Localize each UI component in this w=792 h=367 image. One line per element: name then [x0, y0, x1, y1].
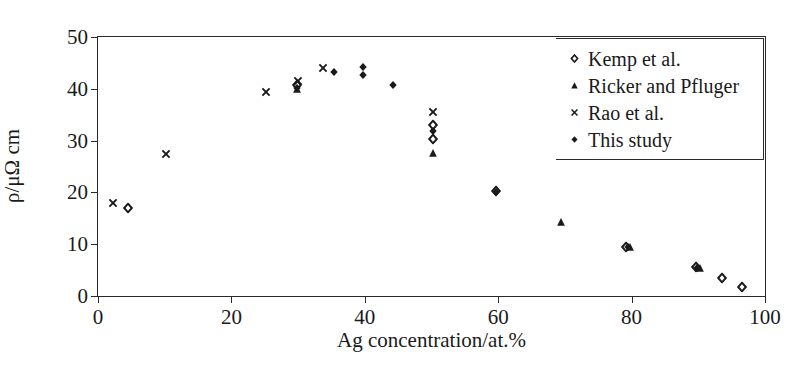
chart-legend: Kemp et al.Ricker and PflugerRao et al.T… — [556, 38, 764, 160]
data-point — [717, 273, 728, 284]
legend-item: Rao et al. — [556, 99, 763, 126]
data-point — [690, 261, 701, 272]
data-point — [427, 126, 438, 137]
data-point — [291, 84, 302, 95]
data-point — [358, 70, 369, 81]
data-point — [625, 242, 636, 253]
y-axis-tick-mark — [91, 141, 98, 142]
legend-item: This study — [556, 126, 763, 153]
data-point — [622, 241, 633, 252]
data-point — [318, 62, 329, 73]
y-axis-tick-mark — [91, 89, 98, 90]
y-axis-tick-label: 20 — [67, 182, 88, 203]
legend-label: This study — [588, 130, 672, 150]
data-point — [123, 202, 134, 213]
resistivity-scatter-chart: 01020304050020406080100 Ag concentration… — [0, 0, 792, 367]
x-axis-tick-label: 20 — [221, 307, 242, 328]
y-axis-tick-mark — [91, 244, 98, 245]
data-point — [387, 79, 398, 90]
y-axis-tick-mark — [91, 192, 98, 193]
x-axis-tick-label: 60 — [488, 307, 509, 328]
filled-triangle-icon — [564, 81, 584, 90]
y-axis-tick-label: 0 — [78, 286, 89, 307]
data-point — [427, 134, 438, 145]
legend-label: Rao et al. — [588, 103, 664, 123]
x-axis-tick-mark — [498, 296, 499, 303]
y-axis-tick-label: 10 — [67, 234, 88, 255]
y-axis-tick-label: 30 — [67, 130, 88, 151]
cross-icon — [564, 108, 584, 117]
y-axis-label: ρ/μΩ cm — [2, 129, 23, 203]
data-point — [694, 263, 705, 274]
legend-item: Ricker and Pfluger — [556, 72, 763, 99]
x-axis-tick-mark — [98, 296, 99, 303]
legend-label: Ricker and Pfluger — [588, 76, 739, 96]
legend-label: Kemp et al. — [588, 49, 681, 69]
data-point — [691, 262, 702, 273]
x-axis-tick-mark — [365, 296, 366, 303]
x-axis-tick-label: 40 — [354, 307, 375, 328]
x-axis-tick-mark — [231, 296, 232, 303]
y-axis-tick-mark — [91, 296, 98, 297]
x-axis-tick-label: 100 — [749, 307, 781, 328]
data-point — [293, 76, 304, 87]
data-point — [329, 66, 340, 77]
x-axis-tick-label: 80 — [621, 307, 642, 328]
data-point — [490, 185, 501, 196]
y-axis-tick-label: 50 — [67, 27, 88, 48]
data-point — [261, 87, 272, 98]
data-point — [555, 217, 566, 228]
data-point — [427, 120, 438, 131]
data-point — [161, 149, 172, 160]
data-point — [490, 187, 501, 198]
legend-item: Kemp et al. — [556, 45, 763, 72]
x-axis-tick-label: 0 — [93, 307, 104, 328]
filled-diamond-icon — [564, 135, 584, 144]
x-axis-tick-mark — [632, 296, 633, 303]
open-diamond-icon — [564, 54, 584, 63]
data-point — [358, 61, 369, 72]
data-point — [737, 281, 748, 292]
data-point — [291, 80, 302, 91]
y-axis-tick-mark — [91, 37, 98, 38]
x-axis-tick-mark — [765, 296, 766, 303]
data-point — [427, 148, 438, 159]
x-axis-label: Ag concentration/at.% — [97, 330, 766, 351]
data-point — [291, 82, 302, 93]
data-point — [621, 241, 632, 252]
data-point — [107, 197, 118, 208]
data-point — [427, 107, 438, 118]
y-axis-tick-label: 40 — [67, 78, 88, 99]
